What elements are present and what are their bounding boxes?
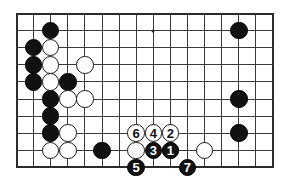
stone-white[interactable] (59, 90, 76, 107)
stone-white[interactable] (76, 90, 93, 107)
hoshi-point (152, 29, 155, 32)
grid-line-vertical (272, 13, 274, 169)
go-board[interactable]: 4623157 (0, 0, 289, 181)
grid-line-vertical (255, 13, 256, 169)
move-number: 4 (150, 127, 157, 140)
stone-black[interactable] (42, 22, 59, 39)
numbered-stone-6[interactable]: 6 (127, 124, 144, 141)
stone-black[interactable] (230, 22, 247, 39)
grid-line-vertical (187, 13, 188, 169)
stone-black[interactable] (42, 90, 59, 107)
grid-line-vertical (16, 13, 18, 169)
move-number: 5 (133, 161, 140, 174)
stone-black[interactable] (42, 107, 59, 124)
move-number: 7 (184, 161, 191, 174)
move-number: 2 (167, 127, 174, 140)
stone-white[interactable] (196, 142, 213, 159)
numbered-stone-2[interactable]: 2 (162, 124, 179, 141)
move-number: 1 (167, 144, 174, 157)
stone-white[interactable] (59, 142, 76, 159)
stone-white[interactable] (127, 142, 144, 159)
go-diagram-root: 4623157 (0, 0, 289, 181)
stone-white[interactable] (59, 124, 76, 141)
stone-black[interactable] (93, 142, 110, 159)
stone-white[interactable] (76, 56, 93, 73)
stone-white[interactable] (42, 56, 59, 73)
numbered-stone-3[interactable]: 3 (145, 142, 162, 159)
numbered-stone-4[interactable]: 4 (145, 124, 162, 141)
stone-black[interactable] (25, 39, 42, 56)
stone-black[interactable] (230, 90, 247, 107)
grid-line-vertical (119, 13, 120, 169)
numbered-stone-5[interactable]: 5 (127, 159, 144, 176)
stone-black[interactable] (59, 73, 76, 90)
stone-white[interactable] (42, 73, 59, 90)
grid-line-vertical (221, 13, 222, 169)
numbered-stone-7[interactable]: 7 (179, 159, 196, 176)
stone-black[interactable] (42, 124, 59, 141)
stone-white[interactable] (42, 142, 59, 159)
grid-line-horizontal (16, 13, 275, 15)
stone-black[interactable] (230, 124, 247, 141)
numbered-stone-1[interactable]: 1 (162, 142, 179, 159)
stone-black[interactable] (25, 73, 42, 90)
stone-white[interactable] (42, 39, 59, 56)
stone-black[interactable] (25, 56, 42, 73)
move-number: 3 (150, 144, 157, 157)
move-number: 6 (133, 127, 140, 140)
